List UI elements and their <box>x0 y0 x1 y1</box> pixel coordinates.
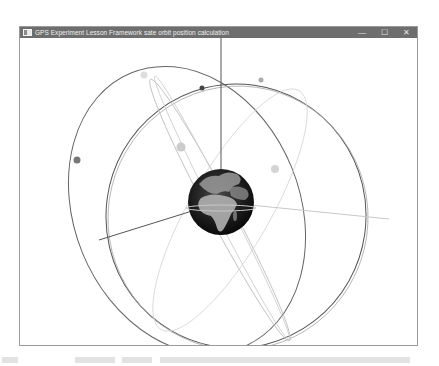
app-window: GPS Experiment Lesson Framework sate orb… <box>19 26 418 346</box>
earth <box>186 169 256 235</box>
window-title: GPS Experiment Lesson Framework sate orb… <box>35 29 229 36</box>
app-icon <box>23 29 32 36</box>
maximize-button[interactable]: ☐ <box>373 27 395 38</box>
close-button[interactable]: ✕ <box>395 27 417 38</box>
minimize-button[interactable]: — <box>351 27 373 38</box>
satellite-marker[interactable] <box>271 165 279 173</box>
orbit-3d-view[interactable] <box>20 38 417 345</box>
satellite-marker[interactable] <box>141 72 148 79</box>
title-bar[interactable]: GPS Experiment Lesson Framework sate orb… <box>20 27 417 38</box>
satellite-marker[interactable] <box>74 157 81 164</box>
satellite-marker[interactable] <box>259 78 264 83</box>
window-controls: — ☐ ✕ <box>351 27 417 38</box>
satellite-marker[interactable] <box>177 143 186 152</box>
satellite-marker[interactable] <box>200 86 205 91</box>
orbit-ellipse <box>27 38 347 345</box>
